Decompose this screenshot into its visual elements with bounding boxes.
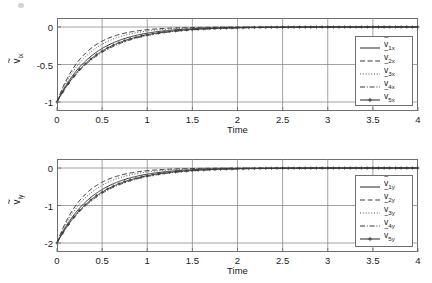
y-tick-label: -1 (27, 97, 53, 108)
figure-root: 00.511.522.533.540-0.5-1 vix Time v1xv2x… (0, 0, 432, 283)
x-axis-title-bottom: Time (57, 265, 418, 276)
legend-item-v5y: v5y (359, 230, 409, 243)
legend-swatch-dashed-line (359, 53, 381, 65)
legend-swatch-dashdot-line (359, 218, 381, 230)
y-axis-label-bottom: viy (11, 185, 24, 215)
y-axis-label-top-symbol: v (11, 59, 22, 64)
legend-swatch-dashed-line (359, 192, 381, 204)
legend-swatch-dotted-line (359, 205, 381, 217)
legend-swatch-line-with-plus-marker (359, 92, 381, 104)
y-axis-label-top: vix (11, 44, 24, 74)
chart-panel-bottom: 00.511.522.533.540-1-2 viy Time v1yv2yv3… (0, 141, 432, 283)
legend-swatch-solid-line (359, 40, 381, 52)
legend-swatch-dashdot-line (359, 79, 381, 91)
legend-swatch-dotted-line (359, 66, 381, 78)
y-tick-label: -0.5 (27, 59, 53, 70)
x-axis-title-top: Time (57, 124, 418, 135)
legend-bottom: v1yv2yv3yv4yv5y (355, 175, 413, 247)
chart-panel-top: 00.511.522.533.540-0.5-1 vix Time v1xv2x… (0, 0, 432, 142)
legend-swatch-line-with-plus-marker (359, 231, 381, 243)
legend-label-v5x: v5x (384, 92, 395, 103)
y-tick-label: -1 (27, 200, 53, 211)
y-axis-label-bottom-symbol: v (11, 200, 22, 205)
legend-top: v1xv2xv3xv4xv5x (355, 36, 413, 106)
y-tick-label: 0 (27, 22, 53, 33)
y-tick-label: 0 (27, 163, 53, 174)
legend-item-v5x: v5x (359, 91, 409, 104)
legend-swatch-solid-line (359, 179, 381, 191)
y-tick-label: -2 (27, 238, 53, 249)
legend-label-v5y: v5y (384, 231, 395, 242)
